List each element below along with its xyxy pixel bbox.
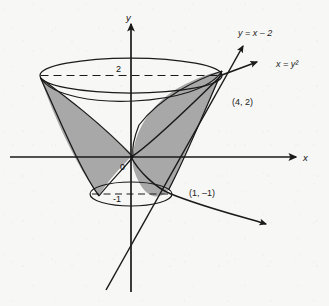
x-axis-label: x [302, 152, 309, 163]
y-axis-label: y [125, 12, 132, 23]
point-label-4-2: (4, 2) [232, 97, 253, 107]
y-tick-label-2: 2 [116, 64, 121, 74]
origin-label: 0 [120, 162, 125, 172]
shaded-region-left [41, 78, 134, 196]
point-label-1-neg1: (1, –1) [189, 188, 215, 198]
figure-root: x y 0 2 -1 y = x – 2 x = y² (4, 2) (1, –… [0, 0, 329, 306]
line-curve-group [106, 46, 243, 290]
solid-of-revolution-diagram: x y 0 2 -1 y = x – 2 x = y² (4, 2) (1, –… [0, 0, 329, 306]
line-equation-label: y = x – 2 [237, 28, 272, 38]
line-y-equals-x-minus-2 [106, 46, 243, 290]
parabola-equation-label: x = y² [275, 59, 299, 69]
y-tick-label-neg1: -1 [113, 194, 121, 204]
